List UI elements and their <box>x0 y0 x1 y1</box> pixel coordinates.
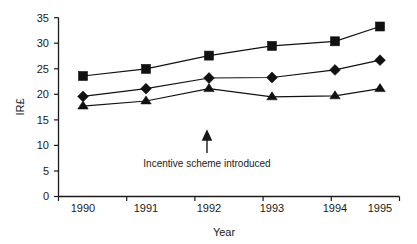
marker-square-1992 <box>205 51 214 60</box>
marker-square-1993 <box>268 41 277 50</box>
axes-group <box>59 18 400 197</box>
marker-diamond-1991 <box>141 83 152 94</box>
y-tick-label-35: 35 <box>37 12 49 24</box>
marker-diamond-1994 <box>330 65 341 76</box>
marker-diamond-1993 <box>267 72 278 83</box>
y-tick-label-30: 30 <box>37 37 49 49</box>
marker-square-1991 <box>142 64 151 73</box>
x-tick-marks <box>59 197 400 202</box>
y-tick-labels: 35 30 25 20 15 10 5 0 <box>37 12 49 203</box>
y-tick-label-15: 15 <box>37 114 49 126</box>
marker-triangle-1992 <box>204 84 214 92</box>
marker-triangle-1990 <box>78 101 88 109</box>
marker-square-1990 <box>79 72 88 81</box>
marker-square-1995 <box>376 22 385 31</box>
y-tick-label-10: 10 <box>37 139 49 151</box>
annotation-arrow-head-icon <box>203 131 211 140</box>
y-tick-label-25: 25 <box>37 63 49 75</box>
marker-triangle-1993 <box>267 92 277 100</box>
x-tick-label-1992: 1992 <box>197 202 221 214</box>
x-tick-label-1993: 1993 <box>260 202 284 214</box>
marker-diamond-1995 <box>375 55 386 66</box>
x-tick-label-1994: 1994 <box>323 202 347 214</box>
y-axis-title: IR£ <box>14 98 26 115</box>
series-triangles <box>78 84 385 109</box>
line-chart: 35 30 25 20 15 10 5 0 1990 1991 1992 199… <box>0 0 417 244</box>
y-tick-label-0: 0 <box>43 190 49 202</box>
x-tick-label-1995: 1995 <box>368 202 392 214</box>
marker-triangle-1995 <box>375 84 385 92</box>
annotation-incentive-scheme: Incentive scheme introduced <box>143 131 270 169</box>
y-tick-label-5: 5 <box>43 165 49 177</box>
annotation-label: Incentive scheme introduced <box>143 158 270 169</box>
x-tick-labels: 1990 1991 1992 1993 1994 1995 <box>71 202 392 214</box>
chart-figure: 35 30 25 20 15 10 5 0 1990 1991 1992 199… <box>0 0 417 244</box>
marker-diamond-1990 <box>78 91 89 102</box>
y-tick-label-20: 20 <box>37 88 49 100</box>
x-tick-label-1990: 1990 <box>71 202 95 214</box>
x-tick-label-1991: 1991 <box>134 202 158 214</box>
y-tick-marks <box>54 18 59 197</box>
x-axis-title: Year <box>213 226 236 238</box>
marker-diamond-1992 <box>204 73 215 84</box>
marker-square-1994 <box>331 37 340 46</box>
